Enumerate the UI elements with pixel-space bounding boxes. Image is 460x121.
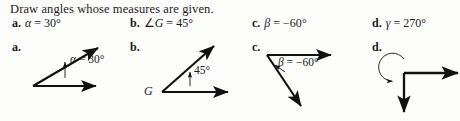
degree-symbol-a: ° [56,16,61,30]
degree-symbol-c: ° [302,16,307,30]
angle-label-value-a: = 30° [76,53,104,65]
question-item-c: c.β = −60° [252,16,307,31]
rotation-arc-d [379,53,404,81]
angle-label-a: α = 30° [70,53,104,65]
question-item-b: b.∠G = 45° [130,16,193,31]
degree-symbol-b: ° [188,16,193,30]
question-letter-d: d. [372,16,382,30]
question-equals-a: = [31,16,44,30]
angle-symbol-b: ∠ [144,16,155,30]
question-equals-c: = [270,16,283,30]
angle-label-value-b: 45° [194,64,210,76]
angle-label-value-c: = −60° [284,56,319,68]
figure-letter-b: b. [130,40,140,55]
question-item-d: d.γ = 270° [372,16,426,31]
figure-b: G 45° [140,36,240,116]
question-value-b: 45 [176,16,188,30]
angle-label-b: 45° [194,64,210,76]
worksheet-page: Draw angles whose measures are given. a.… [0,0,460,121]
figure-d: γ = 270° [368,36,460,120]
vertex-label-b: G [144,84,153,99]
question-letter-a: a. [12,16,21,30]
figure-a: α = 30° [20,36,130,116]
question-letter-c: c. [252,16,260,30]
question-value-c: −60 [283,16,302,30]
question-equals-d: = [390,16,403,30]
figure-c: β = −60° [255,36,360,118]
angle-label-c: β = −60° [278,56,319,68]
question-equals-b: = [163,16,176,30]
instruction-text: Draw angles whose measures are given. [10,2,214,17]
question-value-a: 30 [44,16,56,30]
question-value-d: 270 [403,16,421,30]
question-letter-b: b. [130,16,140,30]
question-item-a: a.α = 30° [12,16,61,31]
degree-symbol-d: ° [421,16,426,30]
